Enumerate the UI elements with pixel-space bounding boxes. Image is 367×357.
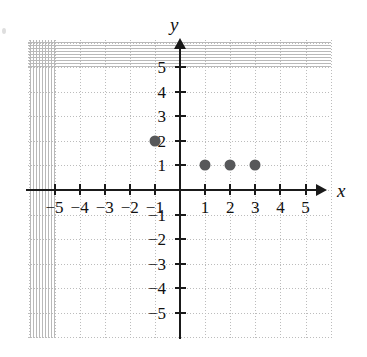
x-axis-tick	[129, 184, 131, 195]
y-axis-tick	[175, 263, 186, 265]
y-axis-tick-label: −1	[134, 207, 166, 224]
x-axis-tick-label: −5	[41, 199, 69, 216]
y-axis-label: y	[170, 14, 178, 36]
y-axis-tick	[175, 287, 186, 289]
data-point	[200, 160, 211, 171]
y-axis-tick	[175, 66, 186, 68]
x-axis-label: x	[337, 180, 345, 202]
x-axis-tick	[79, 184, 81, 195]
data-point	[250, 160, 261, 171]
y-axis-tick	[175, 312, 186, 314]
x-axis-tick	[54, 184, 56, 195]
x-axis-tick	[279, 184, 281, 195]
x-axis-tick-label: 5	[292, 199, 320, 216]
x-axis-tick-label: 1	[191, 199, 219, 216]
x-axis-tick-label: −4	[66, 199, 94, 216]
y-axis-tick-label: −4	[134, 280, 166, 297]
y-axis-tick	[175, 115, 186, 117]
x-axis-tick-label: 2	[216, 199, 244, 216]
y-axis-tick	[175, 238, 186, 240]
scan-artifact	[2, 28, 6, 34]
x-axis-arrowhead-icon	[316, 184, 327, 196]
x-axis-tick	[204, 184, 206, 195]
x-axis-tick	[229, 184, 231, 195]
x-axis-tick-label: 4	[266, 199, 294, 216]
y-axis-tick-label: 4	[134, 84, 166, 101]
x-axis-tick	[254, 184, 256, 195]
y-axis-tick-label: 3	[134, 108, 166, 125]
data-point	[149, 135, 160, 146]
x-axis-tick-label: −3	[91, 199, 119, 216]
y-axis-tick	[175, 140, 186, 142]
coordinate-plane-figure: −5−4−3−2−112345 54321−1−2−3−4−5 x y	[0, 0, 367, 357]
y-axis-tick-label: 1	[134, 157, 166, 174]
y-axis-tick	[175, 91, 186, 93]
x-axis-tick	[104, 184, 106, 195]
y-axis-tick-label: −3	[134, 256, 166, 273]
gridline-vertical	[331, 40, 332, 338]
x-axis-tick	[154, 184, 156, 195]
y-axis-tick	[175, 214, 186, 216]
y-axis-tick-label: 5	[134, 59, 166, 76]
x-axis-tick	[305, 184, 307, 195]
y-axis-tick-label: −2	[134, 231, 166, 248]
x-axis-tick-label: 3	[241, 199, 269, 216]
y-axis-tick-label: −5	[134, 305, 166, 322]
data-point	[225, 160, 236, 171]
y-axis-tick	[175, 164, 186, 166]
x-axis-line	[26, 189, 318, 191]
y-axis-arrowhead-icon	[174, 38, 186, 49]
